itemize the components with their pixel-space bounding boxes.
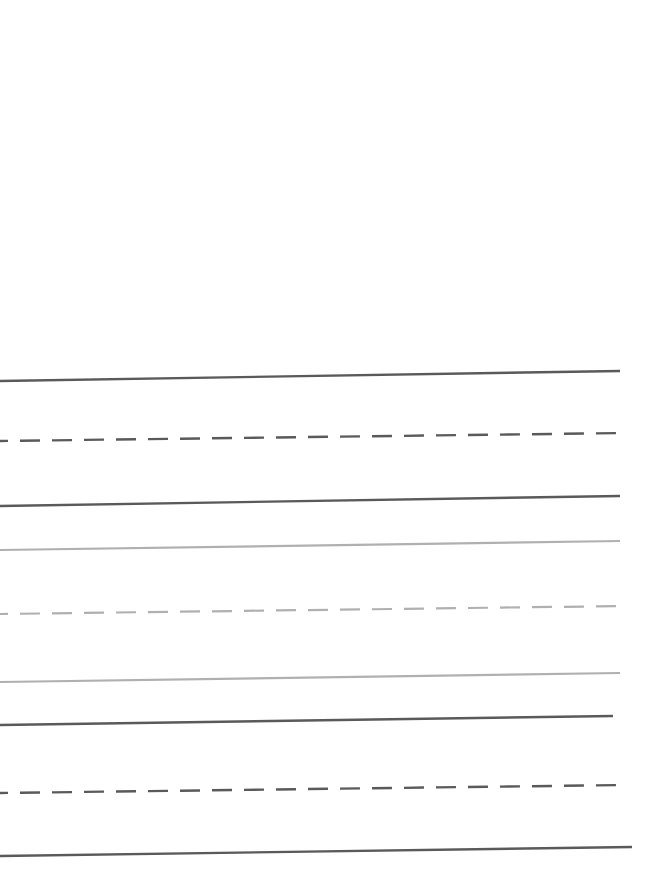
line-figure [0, 0, 661, 884]
figure-canvas [0, 0, 661, 884]
figure-background [0, 0, 661, 884]
